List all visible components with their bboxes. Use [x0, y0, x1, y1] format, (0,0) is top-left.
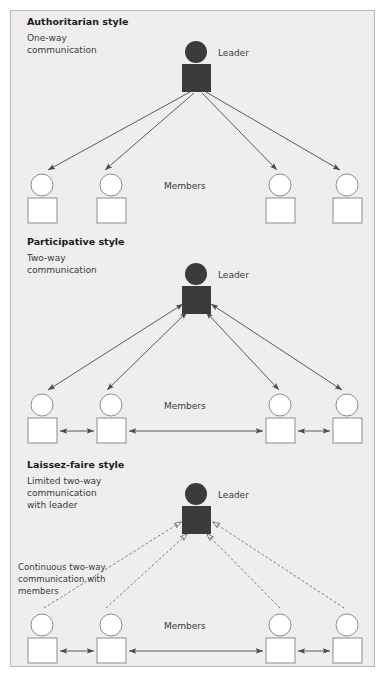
leader-label-authoritarian: Leader — [218, 48, 249, 58]
section-title-laissez-faire: Laissez-faire style — [27, 459, 124, 470]
member-body-icon — [266, 638, 295, 663]
section-authoritarian: Authoritarian style One-way communicatio… — [27, 16, 362, 223]
member-body-icon — [333, 198, 362, 223]
member-body-icon — [28, 418, 57, 443]
laissez-faire-leader: Leader — [182, 483, 249, 534]
authoritarian-members: Members — [28, 174, 362, 223]
section-subtitle-participative-line1: Two-way — [26, 253, 66, 263]
section-title-authoritarian: Authoritarian style — [27, 16, 128, 27]
section-subtitle-authoritarian-line1: One-way — [27, 33, 67, 43]
leader-label-laissez-faire: Leader — [218, 490, 249, 500]
member-body-icon — [97, 638, 126, 663]
member-head-icon — [100, 394, 122, 416]
member-head-icon — [269, 614, 291, 636]
authoritarian-leader: Leader — [182, 41, 249, 92]
member-body-icon — [97, 198, 126, 223]
section-title-participative: Participative style — [27, 236, 125, 247]
member-body-icon — [266, 418, 295, 443]
leader-body-icon — [182, 506, 211, 534]
section-participative: Participative style Two-way communicatio… — [26, 236, 362, 443]
section-subtitle-laissez-faire-line1: Limited two-way — [27, 476, 102, 486]
members-label-authoritarian: Members — [164, 181, 206, 191]
leader-label-participative: Leader — [218, 270, 249, 280]
leader-body-icon — [182, 64, 211, 92]
authoritarian-arrows — [48, 92, 340, 170]
members-label-participative: Members — [164, 401, 206, 411]
annotation-line3: members — [18, 586, 59, 596]
member-body-icon — [28, 638, 57, 663]
member-head-icon — [31, 394, 53, 416]
member-body-icon — [266, 198, 295, 223]
member-head-icon — [336, 614, 358, 636]
member-head-icon — [336, 394, 358, 416]
participative-members: Members — [28, 394, 362, 443]
section-subtitle-laissez-faire-line2: communication — [27, 488, 97, 498]
member-head-icon — [100, 174, 122, 196]
member-head-icon — [31, 174, 53, 196]
leader-head-icon — [185, 263, 207, 285]
member-body-icon — [333, 418, 362, 443]
leadership-styles-figure: Authoritarian style One-way communicatio… — [0, 0, 388, 685]
member-head-icon — [31, 614, 53, 636]
laissez-faire-members: Members — [28, 614, 362, 663]
member-head-icon — [336, 174, 358, 196]
leader-head-icon — [185, 41, 207, 63]
annotation-line2: communication with — [18, 574, 105, 584]
leader-head-icon — [185, 483, 207, 505]
member-head-icon — [269, 394, 291, 416]
participative-leader: Leader — [182, 263, 249, 314]
member-body-icon — [97, 418, 126, 443]
member-head-icon — [269, 174, 291, 196]
member-body-icon — [28, 198, 57, 223]
member-body-icon — [333, 638, 362, 663]
section-subtitle-authoritarian-line2: communication — [27, 45, 97, 55]
section-laissez-faire: Laissez-faire style Limited two-way comm… — [18, 459, 362, 663]
participative-arrows — [48, 304, 342, 390]
annotation-line1: Continuous two-way — [18, 562, 106, 572]
leadership-styles-diagram: Authoritarian style One-way communicatio… — [0, 0, 388, 685]
members-label-laissez-faire: Members — [164, 621, 206, 631]
leader-body-icon — [182, 286, 211, 314]
member-head-icon — [100, 614, 122, 636]
section-subtitle-laissez-faire-line3: with leader — [27, 500, 78, 510]
section-subtitle-participative-line2: communication — [27, 265, 97, 275]
